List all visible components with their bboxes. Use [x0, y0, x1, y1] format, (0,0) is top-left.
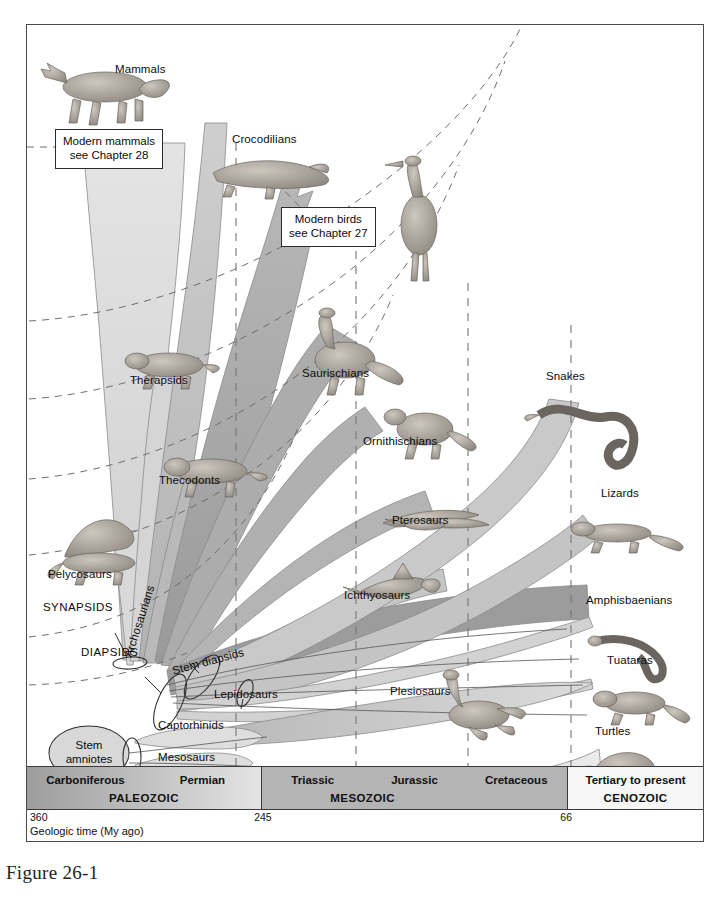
era-cenozoic: Tertiary to present CENOZOIC	[567, 767, 703, 809]
era-name-cenozoic: CENOZOIC	[568, 792, 703, 804]
time-scale-row: 360 245 66 Geologic time (My ago)	[27, 810, 703, 841]
illustration-plesiosaur	[443, 670, 525, 740]
callout-mammals-line1: Modern mammals	[63, 134, 155, 148]
taxon-label-ornithischians: Ornithischians	[363, 435, 437, 448]
time-axis-label: Geologic time (My ago)	[30, 825, 144, 837]
callout-birds-line1: Modern birds	[289, 212, 368, 226]
era-paleozoic: Carboniferous Permian PALEOZOIC	[27, 767, 261, 809]
taxon-label-captorhinids: Captorhinids	[158, 719, 224, 732]
era-mesozoic: Triassic Jurassic Cretaceous MESOZOIC	[261, 767, 567, 809]
illustration-lizard	[571, 522, 683, 553]
cladogram-canvas: Mammals Crocodilians Birds Therapsids Sa…	[27, 25, 703, 841]
figure-caption: Figure 26-1	[6, 862, 98, 884]
illustration-sauropod	[315, 308, 403, 395]
illustration-crocodile	[213, 161, 329, 199]
illustration-snake	[525, 409, 634, 465]
taxon-label-tuataras: Tuataras	[607, 654, 653, 667]
period-triassic: Triassic	[262, 774, 364, 786]
tick-245: 245	[254, 811, 272, 823]
period-carboniferous: Carboniferous	[27, 774, 144, 786]
illustration-ornithischian	[384, 409, 476, 459]
taxon-label-crocodilians: Crocodilians	[232, 133, 296, 146]
taxon-label-lepidosaurs: Lepidosaurs	[214, 688, 278, 701]
taxon-label-pterosaurs: Pterosaurs	[392, 514, 449, 527]
tick-360: 360	[30, 811, 48, 823]
tick-66: 66	[560, 811, 572, 823]
paleozoic-periods: Carboniferous Permian	[27, 772, 261, 787]
taxon-label-saurischians: Saurischians	[302, 367, 369, 380]
callout-birds-line2: see Chapter 27	[289, 226, 368, 240]
taxon-label-ichthyosaurs: Ichthyosaurs	[344, 589, 410, 602]
cenozoic-periods: Tertiary to present	[568, 772, 703, 787]
period-jurassic: Jurassic	[364, 774, 466, 786]
era-row: Carboniferous Permian PALEOZOIC Triassic…	[27, 766, 703, 810]
figure-frame: Mammals Crocodilians Birds Therapsids Sa…	[26, 24, 704, 842]
illustration-heron	[385, 156, 437, 281]
taxon-label-mesosaurs: Mesosaurs	[158, 751, 215, 764]
taxon-label-lizards: Lizards	[601, 487, 639, 500]
mesozoic-periods: Triassic Jurassic Cretaceous	[262, 772, 567, 787]
geologic-timebar: Carboniferous Permian PALEOZOIC Triassic…	[27, 766, 703, 841]
taxon-label-mammals: Mammals	[115, 63, 166, 76]
clade-label-diapsids: DIAPSIDS	[81, 646, 138, 659]
root-node-line2: amniotes	[49, 753, 129, 767]
era-name-paleozoic: PALEOZOIC	[27, 792, 261, 804]
taxon-label-pelycosaurs: Pelycosaurs	[48, 568, 112, 581]
taxon-label-plesiosaurs: Plesiosaurs	[390, 685, 451, 698]
period-permian: Permian	[144, 774, 261, 786]
root-node-line1: Stem	[49, 739, 129, 753]
taxon-label-turtles: Turtles	[595, 725, 630, 738]
callout-mammals-line2: see Chapter 28	[63, 148, 155, 162]
period-tertiary: Tertiary to present	[568, 774, 703, 786]
taxon-label-snakes: Snakes	[546, 370, 585, 383]
clade-label-synapsids: SYNAPSIDS	[43, 601, 113, 614]
root-node-caption: Stem amniotes	[49, 739, 129, 767]
callout-modern-birds[interactable]: Modern birds see Chapter 27	[281, 207, 376, 247]
era-name-mesozoic: MESOZOIC	[262, 792, 463, 804]
illustration-tuatara	[593, 691, 690, 725]
period-cretaceous: Cretaceous	[465, 774, 567, 786]
taxon-label-amphisbaenians: Amphisbaenians	[586, 594, 672, 607]
taxon-label-thecodonts: Thecodonts	[159, 474, 220, 487]
callout-modern-mammals[interactable]: Modern mammals see Chapter 28	[55, 129, 163, 169]
taxon-label-therapsids: Therapsids	[130, 374, 188, 387]
